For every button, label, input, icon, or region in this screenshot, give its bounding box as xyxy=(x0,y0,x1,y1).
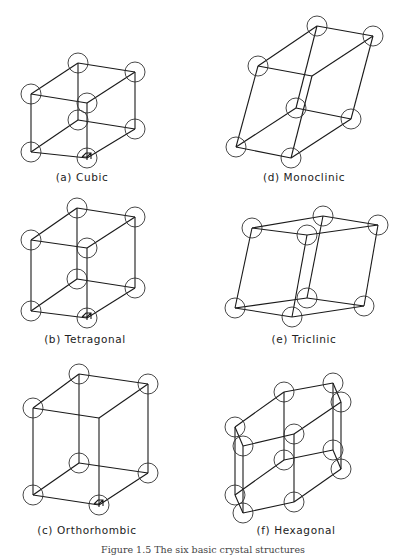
lattice-edge xyxy=(31,240,87,248)
lattice-edge xyxy=(79,463,148,473)
lattice-edge xyxy=(87,72,135,103)
lattice-edge xyxy=(31,94,87,103)
lattice-edge xyxy=(235,460,284,495)
panel-label-triclinic: (e) Triclinic xyxy=(272,333,337,345)
lattice-edge xyxy=(292,306,364,317)
lattice-edge xyxy=(323,216,378,225)
panel-cubic: (a) Cubic xyxy=(21,53,145,183)
panel-orthorhombic: (c) Orthorhombic xyxy=(23,364,158,536)
lattice-edge xyxy=(294,402,341,434)
panel-label-hexagonal: (f) Hexagonal xyxy=(257,524,336,536)
lattice-edge xyxy=(284,383,333,392)
panel-label-monoclinic: (d) Monoclinic xyxy=(263,171,345,183)
panel-label-cubic: (a) Cubic xyxy=(56,171,109,183)
panel-hexagonal: (f) Hexagonal xyxy=(225,373,351,536)
lattice-edge xyxy=(87,288,135,318)
lattice-edge xyxy=(33,463,79,495)
panel-monoclinic: (d) Monoclinic xyxy=(226,16,383,183)
figure-caption: Figure 1.5 The six basic crystal structu… xyxy=(101,544,305,555)
panels-group: (a) Cubic(b) Tetragonal(c) Orthorhombic(… xyxy=(21,16,388,536)
panel-label-orthorhombic: (c) Orthorhombic xyxy=(37,524,136,536)
lattice-edge xyxy=(294,469,341,502)
lattice-edge xyxy=(87,129,135,158)
lattice-edge xyxy=(33,374,79,408)
lattice-edge xyxy=(307,298,364,306)
lattice-edge xyxy=(31,279,77,311)
lattice-edge xyxy=(258,66,312,76)
lattice-edge xyxy=(87,217,135,248)
lattice-edge xyxy=(284,450,333,460)
lattice-edge xyxy=(31,208,77,240)
panel-label-tetragonal: (b) Tetragonal xyxy=(44,333,126,345)
panel-tetragonal: (b) Tetragonal xyxy=(21,198,145,345)
lattice-edge xyxy=(307,225,378,235)
lattice-edge xyxy=(235,392,284,427)
lattice-edge xyxy=(235,298,307,308)
lattice-edge xyxy=(31,120,78,152)
lattice-edge xyxy=(79,374,148,384)
lattice-edge xyxy=(243,502,294,513)
crystal-structures-figure: (a) Cubic(b) Tetragonal(c) Orthorhombic(… xyxy=(0,0,406,556)
lattice-edge xyxy=(99,384,148,418)
lattice-edge xyxy=(235,228,252,308)
lattice-edge xyxy=(364,225,378,306)
lattice-edge xyxy=(99,473,148,505)
panel-triclinic: (e) Triclinic xyxy=(225,206,388,345)
lattice-edge xyxy=(31,63,78,94)
